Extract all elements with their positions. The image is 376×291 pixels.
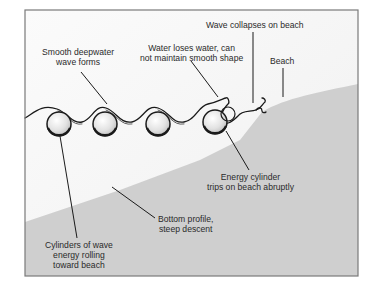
label-bottom-profile: Bottom profile, steep descent: [158, 214, 213, 234]
cylinder-icon: [146, 112, 170, 136]
label-energy-cylinder: Energy cylinder trips on beach abruptly: [207, 172, 294, 192]
wave-diagram: Smooth deepwater wave forms Water loses …: [0, 0, 376, 291]
label-cylinders-rolling: Cylinders of wave energy rolling toward …: [45, 240, 113, 270]
label-wave-collapses: Wave collapses on beach: [206, 20, 304, 30]
cylinder-icon: [47, 112, 71, 136]
label-water-loses: Water loses water, can not maintain smoo…: [140, 43, 243, 63]
cylinder-icon: [93, 112, 117, 136]
label-beach: Beach: [270, 56, 294, 66]
label-smooth-deepwater: Smooth deepwater wave forms: [42, 47, 114, 67]
